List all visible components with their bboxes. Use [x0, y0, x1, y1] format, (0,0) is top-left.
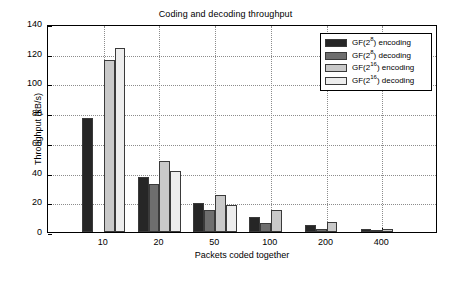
y-axis-label: Throughput (kB/s): [33, 93, 43, 165]
x-axis-label: Packets coded together: [47, 250, 437, 260]
bar: [204, 210, 215, 232]
y-tick-mark: [48, 26, 52, 27]
y-tick-mark: [48, 145, 52, 146]
x-tick-label: 200: [318, 237, 333, 247]
bar: [193, 203, 204, 232]
y-tick-mark: [48, 115, 52, 116]
y-tick-label: 60: [0, 138, 42, 148]
bar: [115, 48, 126, 232]
bar: [327, 222, 338, 232]
bar: [371, 230, 382, 232]
gridline-vertical: [271, 26, 272, 232]
x-tick-label: 10: [98, 237, 108, 247]
legend-label: GF(28) decoding: [352, 52, 411, 60]
legend-swatch: [325, 39, 347, 47]
bar: [82, 118, 93, 232]
legend-swatch: [325, 64, 347, 72]
bar: [215, 195, 226, 232]
y-tick-mark: [48, 175, 52, 176]
y-tick-mark: [48, 234, 52, 235]
bar: [361, 229, 372, 232]
bar: [138, 177, 149, 232]
bar: [260, 223, 271, 232]
x-tick-label: 400: [374, 237, 389, 247]
legend-item-2: GF(216) encoding: [325, 62, 427, 75]
legend-item-0: GF(28) encoding: [325, 37, 427, 50]
bar: [382, 229, 393, 232]
y-tick-mark: [48, 56, 52, 57]
x-tick-label: 50: [209, 237, 219, 247]
y-tick-label: 140: [0, 19, 42, 29]
bar: [271, 210, 282, 232]
y-tick-label: 20: [0, 197, 42, 207]
bar: [305, 225, 316, 232]
x-tick-label: 20: [153, 237, 163, 247]
bar: [170, 171, 181, 232]
legend: GF(28) encodingGF(28) decodingGF(216) en…: [320, 33, 432, 91]
bar: [149, 184, 160, 232]
bar: [104, 60, 115, 232]
y-tick-mark: [48, 85, 52, 86]
x-tick-label: 100: [262, 237, 277, 247]
legend-label: GF(216) decoding: [352, 77, 414, 85]
legend-label: GF(216) encoding: [352, 64, 414, 72]
y-tick-mark: [48, 204, 52, 205]
figure: Coding and decoding throughput Throughpu…: [0, 0, 451, 281]
legend-item-1: GF(28) decoding: [325, 50, 427, 63]
y-tick-label: 0: [0, 227, 42, 237]
chart-title: Coding and decoding throughput: [0, 9, 451, 19]
legend-swatch: [325, 77, 347, 85]
legend-item-3: GF(216) decoding: [325, 75, 427, 88]
bar: [249, 217, 260, 232]
y-tick-label: 120: [0, 49, 42, 59]
y-tick-label: 80: [0, 108, 42, 118]
bar: [159, 161, 170, 232]
bar: [226, 205, 237, 232]
bar: [316, 229, 327, 232]
y-tick-label: 100: [0, 78, 42, 88]
y-tick-label: 40: [0, 168, 42, 178]
legend-swatch: [325, 52, 347, 60]
legend-label: GF(28) encoding: [352, 39, 411, 47]
